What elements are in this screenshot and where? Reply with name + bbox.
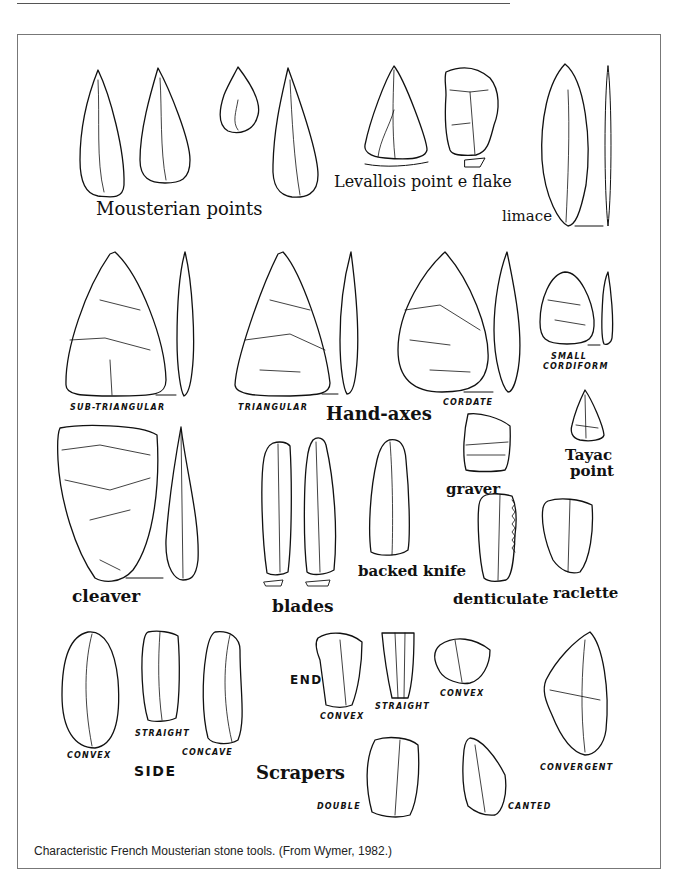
label-convergent: CONVERGENT	[540, 763, 613, 772]
label-blades: blades	[272, 596, 334, 616]
label-raclette: raclette	[553, 584, 618, 602]
label-double: DOUBLE	[317, 802, 361, 811]
convergent-scraper-drawing	[544, 632, 607, 755]
side-scraper-convex-drawing	[62, 632, 119, 748]
cleaver-drawing	[58, 426, 199, 582]
graver-drawing	[464, 414, 510, 472]
label-end-straight: STRAIGHT	[375, 702, 430, 711]
label-side-concave: CONCAVE	[182, 748, 233, 757]
label-canted: CANTED	[508, 802, 552, 811]
blades-drawing	[262, 438, 336, 586]
figure-caption: Characteristic French Mousterian stone t…	[34, 844, 392, 858]
end-scraper-convex-drawing	[316, 633, 362, 707]
cordate-handaxe-drawing	[398, 252, 520, 392]
levallois-point-drawing	[365, 66, 428, 166]
label-end-convex: CONVEX	[320, 712, 364, 721]
backed-knife-drawing	[370, 440, 410, 556]
label-end: END	[290, 673, 323, 687]
stone-tools-illustration	[0, 0, 678, 878]
label-backed-knife: backed knife	[358, 562, 466, 580]
tayac-point-drawing	[571, 390, 604, 441]
mousterian-point-1-drawing	[80, 70, 124, 197]
label-side-straight: STRAIGHT	[135, 729, 190, 738]
label-cordiform: CORDIFORM	[543, 362, 609, 371]
double-scraper-drawing	[367, 738, 419, 817]
raclette-drawing	[542, 499, 592, 573]
label-levallois: Levallois point e flake	[334, 172, 512, 191]
mousterian-point-4-drawing	[273, 68, 318, 197]
small-cordiform-handaxe-drawing	[540, 272, 613, 345]
triangular-handaxe-drawing	[235, 252, 358, 396]
label-sub-triangular: SUB-TRIANGULAR	[70, 403, 165, 412]
levallois-flake-drawing	[445, 68, 498, 167]
label-triangular: TRIANGULAR	[238, 403, 308, 412]
label-hand-axes: Hand-axes	[326, 403, 432, 424]
end-scraper-straight-drawing	[382, 633, 414, 698]
sub-triangular-handaxe-drawing	[66, 252, 194, 396]
label-limace: limace	[502, 207, 552, 225]
label-cleaver: cleaver	[72, 586, 140, 606]
label-cordate: CORDATE	[443, 398, 493, 407]
label-denticulate: denticulate	[453, 590, 549, 608]
denticulate-drawing	[478, 494, 516, 581]
label-point: point	[570, 462, 614, 480]
side-scraper-concave-drawing	[203, 632, 242, 744]
label-graver: graver	[446, 480, 500, 498]
label-side-convex: CONVEX	[67, 751, 111, 760]
label-mousterian-points: Mousterian points	[96, 198, 263, 219]
label-side: SIDE	[134, 763, 176, 779]
limace-drawing	[542, 64, 611, 226]
label-small: SMALL	[551, 352, 587, 361]
side-scraper-straight-drawing	[142, 631, 179, 721]
mousterian-point-3-drawing	[220, 67, 258, 133]
label-end-convex2: CONVEX	[440, 689, 484, 698]
mousterian-point-2-drawing	[140, 68, 190, 183]
end-scraper-convex2-drawing	[435, 639, 490, 683]
canted-scraper-drawing	[463, 738, 506, 815]
label-scrapers: Scrapers	[256, 762, 345, 783]
